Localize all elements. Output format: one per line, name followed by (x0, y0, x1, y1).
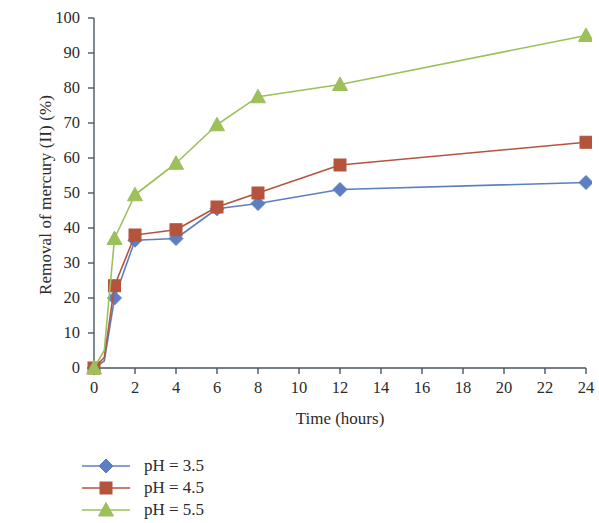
legend-item: pH = 4.5 (78, 477, 338, 499)
x-axis-title: Time (hours) (94, 409, 586, 429)
chart-legend: pH = 3.5pH = 4.5pH = 5.5 (78, 455, 338, 521)
legend-marker-square-icon (78, 477, 134, 499)
legend-item: pH = 3.5 (78, 455, 338, 477)
legend-label: pH = 4.5 (144, 478, 204, 498)
legend-item: pH = 5.5 (78, 499, 338, 521)
data-point-marker (334, 159, 346, 171)
data-series (87, 28, 593, 374)
data-point-marker (210, 117, 225, 131)
data-point-marker (170, 224, 182, 236)
data-point-marker (107, 231, 122, 245)
legend-marker-diamond-icon (78, 455, 134, 477)
data-point-marker (333, 183, 347, 197)
data-series-layer (87, 28, 593, 375)
data-point-marker (252, 187, 264, 199)
data-point-marker (211, 201, 223, 213)
data-point-marker (579, 28, 593, 42)
axis-lines (88, 18, 586, 374)
data-point-marker (579, 176, 592, 190)
legend-marker-triangle-icon (78, 499, 134, 521)
data-point-marker (129, 229, 141, 241)
legend-label: pH = 3.5 (144, 456, 204, 476)
legend-label: pH = 5.5 (144, 500, 204, 520)
data-point-marker (580, 136, 592, 148)
data-point-marker (128, 187, 143, 201)
data-series (87, 176, 592, 376)
